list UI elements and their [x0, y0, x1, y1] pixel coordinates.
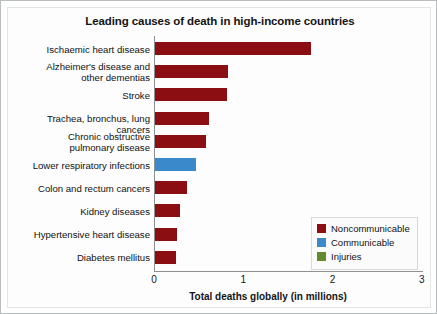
- category-label: Ischaemic heart disease: [16, 44, 150, 55]
- bar: [155, 181, 187, 194]
- category-label-line: Colon and rectum cancers: [16, 183, 150, 194]
- category-label-line: other dementias: [16, 72, 150, 83]
- legend-swatch-icon: [317, 224, 326, 233]
- legend-label: Injuries: [331, 251, 362, 262]
- x-tick-label: 0: [144, 274, 164, 285]
- bar: [155, 204, 180, 217]
- bar: [155, 158, 196, 171]
- category-label: Chronic obstructivepulmonary disease: [16, 131, 150, 153]
- category-label-line: Alzheimer's disease and: [16, 61, 150, 72]
- category-label: Colon and rectum cancers: [16, 183, 150, 194]
- x-tick-label: 3: [412, 274, 432, 285]
- x-tick-label: 1: [233, 274, 253, 285]
- legend-label: Communicable: [331, 237, 394, 248]
- chart-window: Leading causes of death in high-income c…: [0, 0, 437, 314]
- category-label: Lower respiratory infections: [16, 160, 150, 171]
- bar: [155, 88, 227, 101]
- bar: [155, 42, 311, 55]
- category-label-line: Diabetes mellitus: [16, 252, 150, 263]
- category-label: Stroke: [16, 90, 150, 101]
- category-label-line: Stroke: [16, 90, 150, 101]
- bar: [155, 112, 209, 125]
- category-label-line: pulmonary disease: [16, 142, 150, 153]
- legend-swatch-icon: [317, 238, 326, 247]
- category-label-line: Hypertensive heart disease: [16, 229, 150, 240]
- chart-canvas: Leading causes of death in high-income c…: [7, 7, 431, 308]
- legend-item: Injuries: [317, 250, 410, 263]
- legend-swatch-icon: [317, 252, 326, 261]
- legend-item: Communicable: [317, 236, 410, 249]
- legend: NoncommunicableCommunicableInjuries: [311, 217, 418, 270]
- category-label-line: Lower respiratory infections: [16, 160, 150, 171]
- bar: [155, 135, 206, 148]
- category-label: Alzheimer's disease andother dementias: [16, 61, 150, 83]
- legend-item: Noncommunicable: [317, 222, 410, 235]
- legend-label: Noncommunicable: [331, 223, 410, 234]
- bar: [155, 65, 228, 78]
- category-label-line: Ischaemic heart disease: [16, 44, 150, 55]
- bar: [155, 251, 176, 264]
- x-axis-line: [154, 271, 423, 272]
- x-tick-label: 2: [323, 274, 343, 285]
- bar: [155, 228, 177, 241]
- category-label: Kidney diseases: [16, 206, 150, 217]
- category-label: Hypertensive heart disease: [16, 229, 150, 240]
- category-label-line: Kidney diseases: [16, 206, 150, 217]
- category-label-line: Chronic obstructive: [16, 131, 150, 142]
- x-axis-title: Total deaths globally (in millions): [118, 291, 418, 302]
- category-label: Diabetes mellitus: [16, 252, 150, 263]
